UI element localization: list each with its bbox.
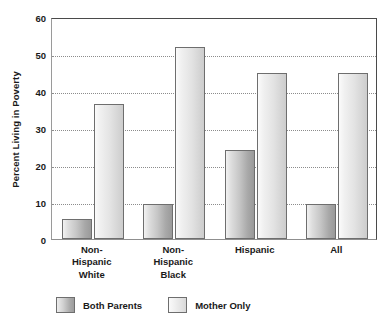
bar[interactable] [62,219,92,239]
bar[interactable] [257,73,287,240]
x-axis-label: Non-HispanicBlack [133,244,215,281]
legend-item[interactable]: Both Parents [56,297,142,313]
y-axis-tick-40: 40 [35,87,46,98]
bar[interactable] [225,150,255,239]
x-axis-label-line: Hispanic [214,244,296,256]
y-axis-tick-60: 60 [35,13,46,24]
x-axis-label: All [296,244,378,256]
bar-group [143,19,205,239]
x-axis-label-line: Black [133,269,215,281]
x-axis-label: Non-HispanicWhite [51,244,133,281]
legend-item[interactable]: Mother Only [168,297,250,313]
bar-group [225,19,287,239]
x-axis-label-line: Hispanic [51,256,133,268]
bar[interactable] [175,47,205,239]
bar-chart-figure: Percent Living in Poverty 0102030405060 … [0,0,391,327]
y-axis-tick-labels: 0102030405060 [24,18,50,240]
chart-legend: Both ParentsMother Only [56,297,251,313]
bar[interactable] [94,104,124,239]
x-axis-category-labels: Non-HispanicWhiteNon-HispanicBlackHispan… [51,244,377,290]
bar[interactable] [306,204,336,239]
legend-swatch-icon [168,297,187,313]
bar-group [62,19,124,239]
y-axis-tick-10: 10 [35,198,46,209]
x-axis-label-line: Non- [51,244,133,256]
bar-series-container [52,19,376,239]
y-axis-title-text: Percent Living in Poverty [10,71,21,188]
x-axis-label-line: White [51,269,133,281]
legend-label: Both Parents [83,300,142,311]
x-axis-label: Hispanic [214,244,296,256]
y-axis-tick-0: 0 [41,235,46,246]
y-axis-title: Percent Living in Poverty [6,0,24,258]
x-axis-label-line: Non- [133,244,215,256]
legend-swatch-icon [56,297,75,313]
plot-area [51,18,377,240]
bar[interactable] [143,204,173,239]
bar-group [306,19,368,239]
y-axis-tick-30: 30 [35,124,46,135]
y-axis-tick-20: 20 [35,161,46,172]
x-axis-label-line: Hispanic [133,256,215,268]
y-axis-tick-50: 50 [35,50,46,61]
legend-label: Mother Only [195,300,250,311]
x-axis-label-line: All [296,244,378,256]
bar[interactable] [338,73,368,240]
